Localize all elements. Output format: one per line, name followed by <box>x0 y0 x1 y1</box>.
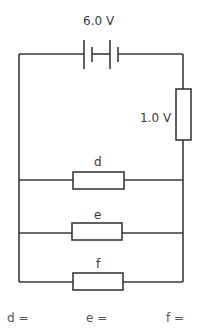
circuit-diagram <box>0 0 204 335</box>
answer-e-label: e = <box>86 312 107 324</box>
battery-voltage-label: 6.0 V <box>83 15 114 27</box>
resistor-e-label: e <box>94 209 101 221</box>
answer-d-label: d = <box>7 312 29 324</box>
series-resistor-label: 1.0 V <box>140 112 171 124</box>
battery-icon <box>84 40 118 69</box>
resistor-e-icon <box>72 223 122 240</box>
resistor-d-icon <box>73 172 124 189</box>
resistor-d-label: d <box>94 156 102 168</box>
resistor-f-label: f <box>96 258 100 270</box>
series-resistor-icon <box>176 89 191 140</box>
answer-f-label: f = <box>166 312 184 324</box>
resistor-f-icon <box>73 273 123 290</box>
